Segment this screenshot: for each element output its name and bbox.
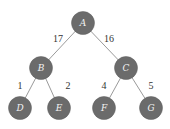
weight-b-d: 1 xyxy=(18,80,23,91)
node-b: B xyxy=(30,57,53,80)
node-e: E xyxy=(48,97,71,120)
node-c: C xyxy=(115,57,138,80)
weight-a-b: 17 xyxy=(53,33,63,44)
node-d: D xyxy=(9,97,32,120)
node-g: G xyxy=(140,97,163,120)
node-f-label: F xyxy=(100,103,108,113)
node-e-label: E xyxy=(55,103,63,113)
node-a: A xyxy=(72,12,95,35)
node-a-label: A xyxy=(79,18,87,28)
weight-a-c: 16 xyxy=(104,33,114,44)
weight-c-f: 4 xyxy=(102,80,107,91)
tree-diagram: 17 16 1 2 4 5 A B C D E F xyxy=(0,0,170,129)
weight-c-g: 5 xyxy=(149,80,154,91)
weight-b-e: 2 xyxy=(66,80,71,91)
node-b-label: B xyxy=(37,63,45,73)
node-g-label: G xyxy=(147,103,154,113)
node-f: F xyxy=(93,97,116,120)
node-d-label: D xyxy=(15,103,23,113)
nodes: A B C D E F G xyxy=(9,12,163,120)
node-c-label: C xyxy=(123,63,130,73)
